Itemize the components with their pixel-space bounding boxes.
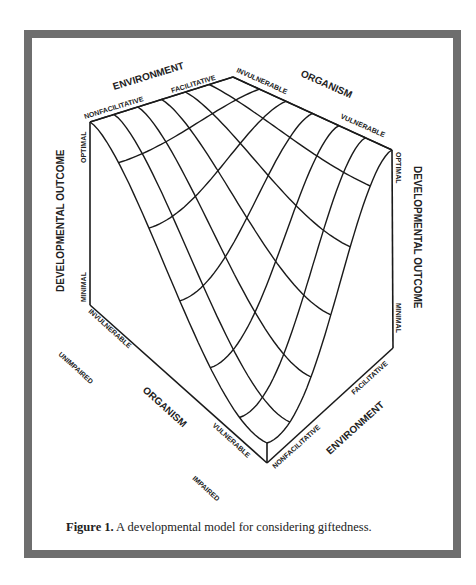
label-developmental-outcome-right: DEVELOPMENTAL OUTCOME [412,166,423,309]
label-unimpaired: UNIMPAIRED [57,351,94,386]
label-organism-bottom: ORGANISM [141,384,189,429]
mesh-line [114,115,290,423]
label-facilitative-bottom: FACILITATIVE [350,360,389,396]
mesh-line [138,107,311,377]
caption-text: A developmental model for considering gi… [114,520,372,534]
developmental-model-diagram: ENVIRONMENT NONFACILITATIVE FACILITATIVE… [0,0,476,585]
mesh-line [162,100,331,315]
label-optimal-right: OPTIMAL [395,152,402,184]
label-vulnerable-top: VULNERABLE [340,113,387,139]
label-impaired: IMPAIRED [191,475,221,503]
mesh-line [90,122,267,443]
label-optimal-left: OPTIMAL [80,131,87,163]
label-nonfacilitative-bottom: NONFACILITATIVE [271,423,322,470]
mesh-line [240,138,366,418]
caption-label: Figure 1. [66,520,114,534]
figure-caption: Figure 1. A developmental model for cons… [66,520,426,535]
box-edges [90,77,393,463]
right-vertical-axis [392,150,393,348]
label-vulnerable-bottom: VULNERABLE [211,422,251,459]
surface-mesh [90,77,392,443]
label-developmental-outcome-left: DEVELOPMENTAL OUTCOME [55,149,66,292]
label-minimal-right: MINIMAL [395,303,402,334]
label-environment-bottom: ENVIRONMENT [324,399,386,457]
label-minimal-left: MINIMAL [80,271,87,302]
label-invulnerable-bottom: INVULNERABLE [87,308,133,350]
label-organism-top: ORGANISM [299,68,354,100]
